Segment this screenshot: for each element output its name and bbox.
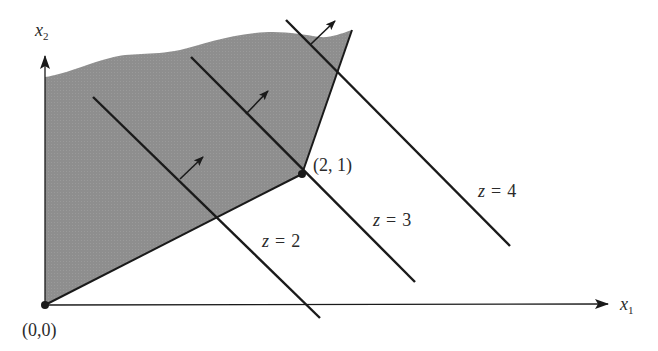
optimal-vertex-point — [298, 170, 306, 178]
feasible-region — [45, 30, 352, 305]
objective-label-z3: z=3 — [372, 210, 411, 230]
objective-label-z4: z=4 — [477, 181, 516, 201]
vertex-label: (2, 1) — [313, 155, 352, 176]
lp-diagram: x2 x1 (0,0) (2, 1) z=2 z=3 z=4 — [0, 0, 658, 351]
x1-axis — [45, 304, 608, 305]
x2-axis-label: x2 — [34, 20, 49, 42]
origin-label: (0,0) — [22, 320, 57, 341]
objective-label-z2: z=2 — [261, 231, 300, 251]
origin-point — [41, 301, 49, 309]
x1-axis-label: x1 — [619, 294, 634, 316]
objective-line-z4 — [286, 20, 510, 246]
